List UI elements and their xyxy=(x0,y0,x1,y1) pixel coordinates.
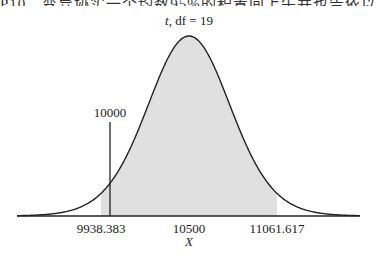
chart-title-rest: , df = 19 xyxy=(169,13,213,28)
reference-line-label: 10000 xyxy=(94,105,127,120)
x-tick-label-lower: 9938.383 xyxy=(77,221,126,236)
confidence-interval-shaded-area xyxy=(101,36,277,216)
x-tick-label-upper: 11061.617 xyxy=(250,221,305,236)
t-distribution-chart: 10000 t, df = 19 9938.383 10500 11061.61… xyxy=(0,0,376,262)
x-axis-label: X xyxy=(184,234,194,249)
chart-title: t, df = 19 xyxy=(165,13,213,28)
